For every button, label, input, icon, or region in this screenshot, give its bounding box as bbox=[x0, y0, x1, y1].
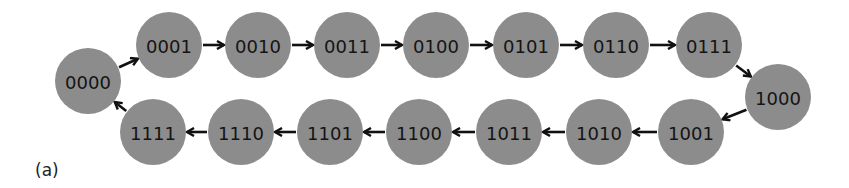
node-label: 1010 bbox=[576, 123, 622, 144]
node-label: 0110 bbox=[593, 36, 639, 57]
state-node-0001: 0001 bbox=[136, 12, 202, 78]
state-node-0010: 0010 bbox=[225, 12, 291, 78]
node-label: 0001 bbox=[146, 36, 192, 57]
arrow-0000-to-0001 bbox=[119, 59, 138, 67]
node-label: 0101 bbox=[503, 36, 549, 57]
node-label: 1000 bbox=[755, 88, 801, 109]
arrow-1000-to-1001 bbox=[723, 110, 747, 120]
state-node-0110: 0110 bbox=[583, 12, 649, 78]
state-node-1101: 1101 bbox=[297, 99, 363, 165]
node-label: 0000 bbox=[65, 72, 111, 93]
node-label: 0010 bbox=[235, 36, 281, 57]
state-node-1111: 1111 bbox=[120, 99, 186, 165]
node-label: 0011 bbox=[324, 36, 370, 57]
state-node-1000: 1000 bbox=[745, 64, 811, 130]
node-label: 1101 bbox=[307, 123, 353, 144]
node-label: 1110 bbox=[218, 123, 264, 144]
state-node-0000: 0000 bbox=[55, 48, 121, 114]
state-node-1011: 1011 bbox=[476, 99, 542, 165]
node-label: 1111 bbox=[130, 123, 176, 144]
state-node-1100: 1100 bbox=[386, 99, 452, 165]
state-nodes: 0000000100100011010001010110011110001001… bbox=[55, 12, 811, 165]
node-label: 1011 bbox=[486, 123, 532, 144]
state-node-1110: 1110 bbox=[208, 99, 274, 165]
node-label: 1001 bbox=[668, 123, 714, 144]
arrow-1111-to-0000 bbox=[115, 102, 127, 111]
binary-counter-state-diagram: 0000000100100011010001010110011110001001… bbox=[0, 0, 849, 188]
state-node-1010: 1010 bbox=[566, 99, 632, 165]
state-node-0100: 0100 bbox=[403, 12, 469, 78]
state-node-0011: 0011 bbox=[314, 12, 380, 78]
node-label: 0100 bbox=[413, 36, 459, 57]
figure-caption: (a) bbox=[35, 160, 59, 180]
state-node-1001: 1001 bbox=[658, 99, 724, 165]
arrow-0111-to-1000 bbox=[736, 65, 751, 76]
node-label: 0111 bbox=[686, 36, 732, 57]
node-label: 1100 bbox=[396, 123, 442, 144]
state-node-0111: 0111 bbox=[676, 12, 742, 78]
state-node-0101: 0101 bbox=[493, 12, 559, 78]
